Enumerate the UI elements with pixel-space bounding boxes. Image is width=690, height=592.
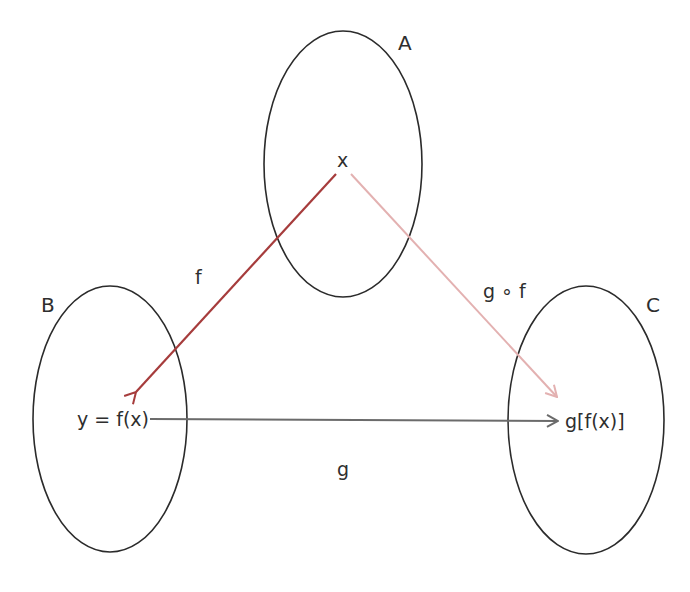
element-g-of-f-x: g[f(x)] — [565, 410, 625, 432]
set-b-label: B — [41, 293, 55, 317]
set-c-label: C — [646, 293, 660, 317]
element-x: x — [337, 149, 348, 171]
arrow-g-label: g — [337, 458, 349, 480]
arrow-g — [150, 419, 558, 421]
arrow-f — [136, 174, 336, 392]
set-a-label: A — [398, 31, 412, 55]
arrow-g-compose-f-label: g ∘ f — [483, 280, 527, 302]
element-y-equals-f-x: y = f(x) — [77, 408, 149, 430]
function-composition-diagram: A B C x y = f(x) g[f(x)] f g g ∘ f — [0, 0, 690, 592]
arrow-g-compose-f — [351, 174, 557, 397]
arrow-f-label: f — [195, 266, 203, 288]
